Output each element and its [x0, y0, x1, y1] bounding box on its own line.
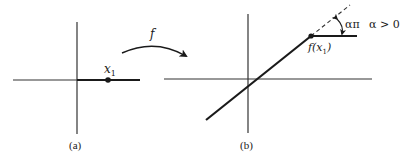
mapping-arrow-icon: [122, 46, 186, 56]
conformal-map-diagram: x1 (a) f απ α > 0 f(x1) (b): [0, 0, 411, 160]
panel-b: απ α > 0 f(x1) (b): [164, 5, 400, 152]
panel-b-caption: (b): [240, 139, 253, 152]
mapping-label: f: [149, 27, 157, 41]
angle-label: απ: [345, 18, 360, 31]
point-f-x1-label: f(x1): [307, 41, 331, 56]
angle-arrow-icon: [337, 19, 342, 34]
point-x1-label: x1: [104, 62, 116, 78]
image-diagonal-segment: [206, 36, 311, 120]
panel-a: x1 (a): [13, 22, 140, 152]
mapping-f: f: [122, 27, 186, 56]
point-f-x1: [308, 33, 313, 38]
point-x1: [105, 77, 111, 83]
panel-a-caption: (a): [69, 139, 82, 152]
condition-label: α > 0: [369, 18, 400, 31]
